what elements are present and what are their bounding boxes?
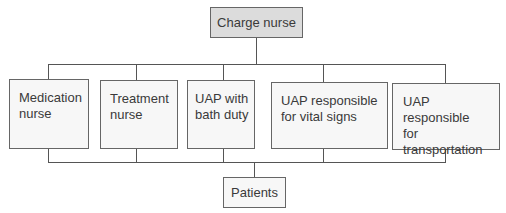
node-label-line1: Medication	[19, 90, 88, 106]
node-label-line2: nurse	[110, 107, 177, 123]
connector-bottom-horizontal	[48, 162, 446, 163]
node-charge-nurse: Charge nurse	[210, 7, 303, 38]
node-treatment-nurse: Treatment nurse	[100, 80, 178, 149]
node-medication-nurse: Medication nurse	[9, 79, 89, 149]
node-label-line1: UAP responsible	[281, 93, 387, 109]
node-label-line2: for vital signs	[281, 109, 387, 125]
node-label-line2: nurse	[19, 106, 88, 122]
node-label-line1: Treatment	[110, 91, 177, 107]
node-label-line1: UAP with	[195, 91, 254, 107]
connector-top-vertical	[256, 37, 257, 64]
node-uap-transportation: UAP responsible for transportation	[392, 83, 500, 150]
node-label: Patients	[231, 185, 278, 201]
node-label: Charge nurse	[217, 15, 296, 31]
connector-bottom-vertical	[254, 162, 255, 177]
node-uap-bath-duty: UAP with bath duty	[187, 80, 255, 149]
connector-top-horizontal	[48, 64, 446, 65]
node-uap-vital-signs: UAP responsible for vital signs	[271, 82, 388, 149]
node-patients: Patients	[223, 177, 286, 208]
node-label-line2: for transportation	[403, 126, 499, 158]
node-label-line1: UAP responsible	[403, 94, 499, 126]
node-label-line2: bath duty	[195, 107, 254, 123]
